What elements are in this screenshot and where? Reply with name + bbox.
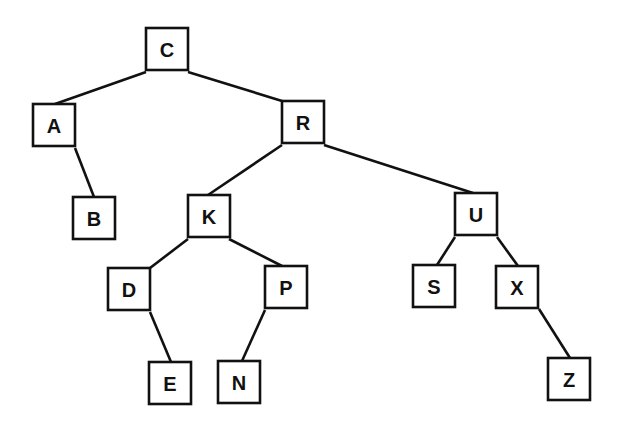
tree-node-d: D xyxy=(108,268,150,310)
node-label: P xyxy=(279,277,292,299)
node-label: Z xyxy=(563,369,575,391)
node-label: R xyxy=(296,112,311,134)
node-label: A xyxy=(47,115,61,137)
node-label: C xyxy=(160,39,174,61)
tree-node-r: R xyxy=(282,101,324,143)
edge-u-x xyxy=(497,237,518,266)
edge-u-s xyxy=(437,237,455,265)
tree-node-b: B xyxy=(73,197,115,239)
edge-k-p xyxy=(229,239,282,266)
node-label: E xyxy=(163,373,176,395)
edge-r-k xyxy=(208,145,282,195)
tree-diagram: CARBKUDPSXENZ xyxy=(0,0,623,431)
node-label: X xyxy=(510,277,524,299)
edge-p-n xyxy=(242,310,265,361)
node-label: S xyxy=(427,276,440,298)
tree-node-z: Z xyxy=(548,358,590,400)
tree-node-x: X xyxy=(496,266,538,308)
node-label: D xyxy=(122,279,136,301)
tree-node-a: A xyxy=(33,104,75,146)
edge-a-b xyxy=(75,148,94,197)
tree-nodes: CARBKUDPSXENZ xyxy=(33,28,590,404)
node-label: K xyxy=(202,206,217,228)
node-label: N xyxy=(232,372,246,394)
tree-node-e: E xyxy=(149,362,191,404)
node-label: U xyxy=(469,204,483,226)
tree-node-c: C xyxy=(146,28,188,70)
edge-d-e xyxy=(150,312,171,362)
edge-x-z xyxy=(539,309,570,358)
tree-node-k: K xyxy=(188,195,230,237)
edge-c-a xyxy=(55,72,146,104)
edge-r-u xyxy=(324,145,473,193)
tree-node-s: S xyxy=(413,265,455,307)
tree-node-n: N xyxy=(218,361,260,403)
edge-k-d xyxy=(150,239,188,268)
tree-node-u: U xyxy=(455,193,497,235)
tree-node-p: P xyxy=(265,266,307,308)
node-label: B xyxy=(87,208,101,230)
edge-c-r xyxy=(188,72,282,101)
